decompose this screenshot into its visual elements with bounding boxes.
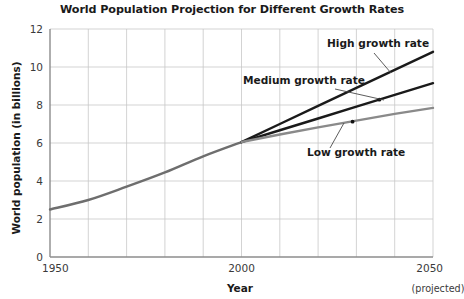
y-tick-label: 2: [36, 213, 43, 225]
y-axis-tick-labels: 024681012: [30, 23, 44, 263]
marker-dot: [351, 120, 355, 124]
annotation-leader-line: [330, 123, 344, 148]
series-line-historical: [50, 142, 242, 209]
y-axis-title: World population (in billions): [10, 62, 22, 235]
population-projection-chart: 024681012 195020002050 World population …: [0, 0, 464, 299]
y-tick-label: 4: [36, 175, 43, 187]
y-tick-label: 6: [36, 137, 43, 149]
annotation-label: High growth rate: [327, 37, 429, 49]
projected-note: (projected): [412, 283, 464, 294]
annotation-leader-line: [374, 53, 391, 73]
annotation-label: Medium growth rate: [243, 74, 365, 86]
y-tick-label: 0: [36, 251, 43, 263]
x-tick-label: 2000: [228, 262, 255, 274]
x-axis-tick-labels: 195020002050: [42, 262, 443, 274]
x-tick-label: 1950: [42, 262, 69, 274]
chart-container: World Population Projection for Differen…: [0, 0, 464, 299]
y-tick-label: 8: [36, 99, 43, 111]
y-tick-label: 12: [30, 23, 43, 35]
x-axis-title: Year: [226, 282, 254, 294]
y-tick-label: 10: [30, 61, 43, 73]
annotation-label: Low growth rate: [307, 146, 405, 158]
series-line-high-growth-rate: [242, 52, 434, 142]
x-tick-label: 2050: [416, 262, 443, 274]
